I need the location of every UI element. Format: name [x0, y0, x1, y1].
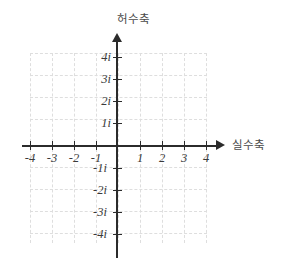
y-tick-mark [113, 190, 122, 191]
x-tick-mark [140, 141, 141, 150]
y-tick-label-minus-3i: -3i [77, 206, 107, 219]
y-tick-mark [113, 168, 122, 169]
y-tick-label-minus-1i: -1i [77, 162, 107, 175]
imaginary-axis-line [116, 40, 118, 258]
y-tick-mark [113, 57, 122, 58]
x-tick-mark [162, 141, 163, 150]
y-tick-label-1i: 1i [81, 117, 111, 130]
grid-line-horizontal [30, 53, 207, 54]
y-tick-label-3i: 3i [81, 73, 111, 86]
x-tick-label-4: 4 [193, 152, 219, 165]
grid-line-horizontal [30, 75, 207, 76]
real-axis-title: 실수축 [232, 140, 265, 152]
y-tick-mark [113, 234, 122, 235]
y-tick-label-minus-2i: -2i [77, 184, 107, 197]
x-tick-mark [30, 141, 31, 150]
real-axis-arrow-icon [216, 140, 225, 150]
imaginary-axis-title: 허수축 [117, 14, 150, 26]
grid [30, 53, 207, 243]
y-tick-label-minus-4i: -4i [77, 228, 107, 241]
y-tick-mark [113, 212, 122, 213]
x-tick-mark [206, 141, 207, 150]
y-tick-mark [113, 79, 122, 80]
x-tick-mark [96, 141, 97, 150]
x-tick-mark [52, 141, 53, 150]
x-tick-mark [184, 141, 185, 150]
grid-line-horizontal [30, 97, 207, 98]
y-tick-label-2i: 2i [81, 95, 111, 108]
imaginary-axis-arrow-icon [112, 33, 122, 42]
complex-plane-figure: -4 -3 -2 -1 1 2 3 4 4i 3i 2i 1i -1i -2i … [0, 0, 283, 268]
y-tick-mark [113, 101, 122, 102]
y-tick-label-4i: 4i [81, 51, 111, 64]
grid-line-vertical [118, 53, 119, 243]
y-tick-mark [113, 123, 122, 124]
grid-line-horizontal [30, 119, 207, 120]
x-tick-mark [74, 141, 75, 150]
